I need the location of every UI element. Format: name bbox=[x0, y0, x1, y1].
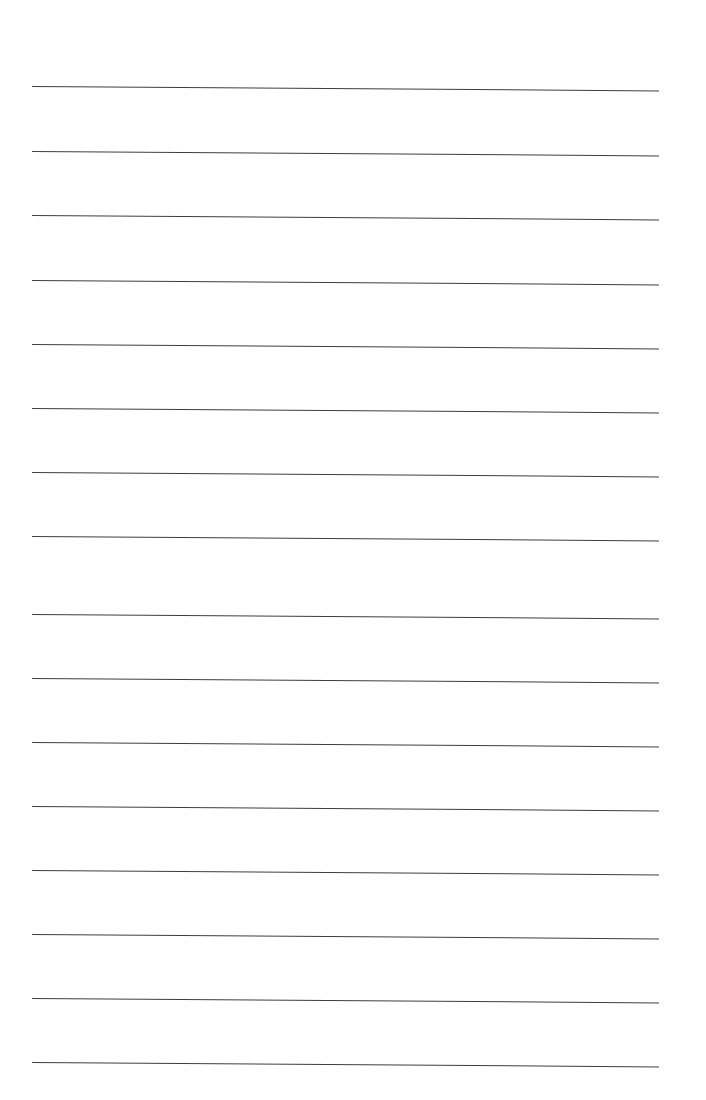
ruled-line bbox=[32, 280, 659, 285]
ruled-line bbox=[32, 472, 659, 477]
ruled-line bbox=[32, 934, 659, 939]
ruled-line bbox=[32, 408, 659, 413]
ruled-line bbox=[32, 870, 659, 875]
ruled-line bbox=[32, 215, 659, 220]
ruled-line bbox=[32, 998, 659, 1003]
ruled-line bbox=[32, 86, 659, 91]
ruled-line bbox=[32, 742, 659, 747]
ruled-line bbox=[32, 614, 659, 619]
ruled-line bbox=[32, 536, 659, 541]
ruled-line bbox=[32, 806, 659, 811]
ruled-line bbox=[32, 344, 659, 349]
notepaper-page bbox=[0, 0, 706, 1100]
ruled-line bbox=[32, 1062, 659, 1067]
ruled-line bbox=[32, 151, 659, 156]
ruled-line bbox=[32, 678, 659, 683]
